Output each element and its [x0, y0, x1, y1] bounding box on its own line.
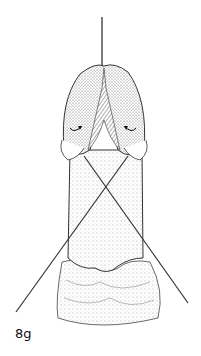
- figure-label: 8g: [15, 326, 32, 341]
- shaft: [68, 150, 143, 272]
- surgical-illustration: [0, 0, 201, 356]
